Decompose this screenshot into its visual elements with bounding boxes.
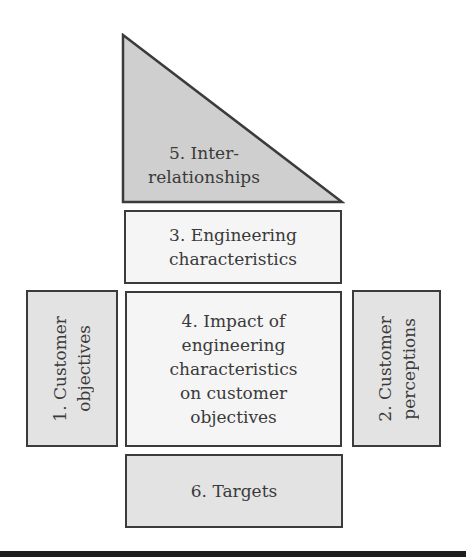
customer-perceptions-label: 2. Customer perceptions	[373, 316, 421, 422]
label-line: 3. Engineering	[169, 223, 297, 247]
label-line: engineering	[169, 333, 297, 357]
interrelationships-triangle: 5. Inter- relationships	[121, 33, 345, 205]
label-line: objectives	[169, 405, 297, 429]
targets-box: 6. Targets	[125, 454, 343, 528]
label-line: perceptions	[397, 316, 421, 422]
label-line: on customer	[169, 381, 297, 405]
label-line: relationships	[129, 165, 279, 189]
label-line: 2. Customer	[373, 316, 397, 422]
label-line: 4. Impact of	[169, 309, 297, 333]
label-line: characteristics	[169, 357, 297, 381]
interrelationships-label: 5. Inter- relationships	[129, 141, 279, 189]
customer-objectives-box: 1. Customer objectives	[26, 290, 118, 447]
engineering-characteristics-label: 3. Engineering characteristics	[169, 223, 297, 271]
customer-perceptions-box: 2. Customer perceptions	[352, 290, 441, 447]
bottom-border-bar	[0, 551, 466, 557]
label-line: objectives	[72, 316, 96, 422]
targets-label: 6. Targets	[191, 479, 277, 503]
label-line: 1. Customer	[48, 316, 72, 422]
impact-matrix-label: 4. Impact of engineering characteristics…	[169, 309, 297, 429]
impact-matrix-box: 4. Impact of engineering characteristics…	[125, 291, 342, 447]
engineering-characteristics-box: 3. Engineering characteristics	[124, 210, 342, 284]
customer-objectives-label: 1. Customer objectives	[48, 316, 96, 422]
label-line: characteristics	[169, 247, 297, 271]
label-line: 5. Inter-	[129, 141, 279, 165]
